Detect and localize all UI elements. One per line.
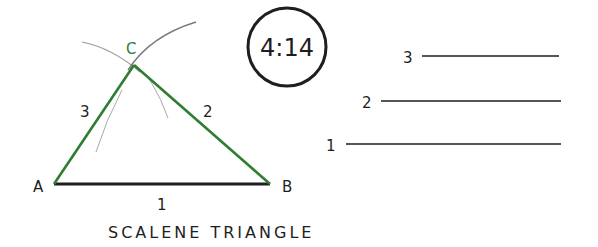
vertex-label-a: A [33,178,44,196]
side-2-cb [134,65,270,184]
side-label-1: 1 [157,196,167,214]
reference-label-2: 2 [362,94,372,112]
side-label-3: 3 [80,103,90,121]
construction-arc-right [128,22,196,70]
side-label-2: 2 [203,103,213,121]
figure-badge-number: 4:14 [260,34,314,62]
reference-label-3: 3 [403,49,413,67]
figure-title: SCALENE TRIANGLE [108,223,314,242]
vertex-label-b: B [282,178,292,196]
construction-arc-left-lower [96,90,122,152]
reference-label-1: 1 [326,137,336,155]
side-3-ac [54,65,134,184]
vertex-label-c: C [126,40,136,58]
scalene-triangle-diagram: A B C 3 2 1 SCALENE TRIANGLE 4:14 3 2 1 [0,0,598,247]
